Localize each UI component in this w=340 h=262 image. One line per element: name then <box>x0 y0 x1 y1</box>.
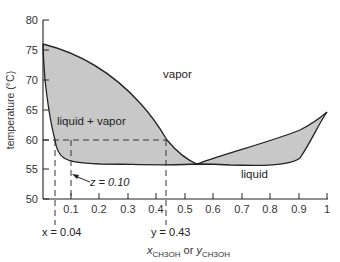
z-arrow <box>72 174 90 182</box>
y-annotation: y = 0.43 <box>151 226 190 238</box>
liquid-region-label: liquid <box>241 168 268 180</box>
x-tick-0.3: 0.3 <box>120 203 135 215</box>
x-tick-0.2: 0.2 <box>91 203 106 215</box>
x-annotation: x = 0.04 <box>42 226 81 238</box>
two-phase-region-label: liquid + vapor <box>57 115 126 127</box>
vapor-region-label: vapor <box>163 68 192 80</box>
y-tick-55: 55 <box>26 163 38 175</box>
y-tick-65: 65 <box>26 104 38 116</box>
y-axis-label: temperature (°C) <box>4 71 16 149</box>
x-tick-0.8: 0.8 <box>262 203 277 215</box>
x-tick-0.1: 0.1 <box>63 203 78 215</box>
y-tick-50: 50 <box>26 193 38 205</box>
x-tick-0.7: 0.7 <box>234 203 249 215</box>
x-tick-1: 1 <box>324 203 330 215</box>
x-axis-label: xCH3OH or yCH3OH <box>146 244 230 259</box>
x-tick-0.9: 0.9 <box>291 203 306 215</box>
y-tick-70: 70 <box>26 74 38 86</box>
y-tick-80: 80 <box>26 14 38 26</box>
x-ticks <box>71 193 327 199</box>
y-tick-75: 75 <box>26 44 38 56</box>
y-tick-60: 60 <box>26 134 38 146</box>
y-tick-labels: 80 75 70 65 60 55 50 <box>26 14 38 205</box>
x-tick-0.5: 0.5 <box>177 203 192 215</box>
x-tick-0.4: 0.4 <box>148 203 163 215</box>
x-tick-0.6: 0.6 <box>205 203 220 215</box>
two-phase-region <box>43 44 327 165</box>
z-annotation: z = 0.10 <box>89 176 130 188</box>
x-tick-labels: 0.1 0.2 0.3 0.4 0.5 0.6 0.7 0.8 0.9 1 <box>63 203 330 215</box>
phase-diagram-chart: 80 75 70 65 60 55 50 0.1 0.2 0.3 0.4 0.5… <box>0 0 340 262</box>
